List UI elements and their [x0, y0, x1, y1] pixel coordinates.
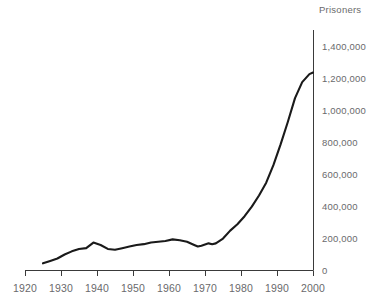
x-axis-tick-label: 1970 [185, 282, 225, 294]
prisoners-data-line [43, 73, 313, 264]
y-axis-title: Prisoners [319, 4, 361, 15]
y-axis-tick-label: 400,000 [322, 201, 358, 212]
x-axis-tick-label: 1940 [77, 282, 117, 294]
y-axis-tick-label: 1,000,000 [322, 105, 366, 116]
x-axis-tick-label: 1920 [5, 282, 45, 294]
y-axis-tick-label: 0 [322, 265, 327, 276]
x-axis-tick-label: 2000 [293, 282, 333, 294]
x-axis-ticks [26, 271, 314, 277]
x-axis-tick-label: 1960 [149, 282, 189, 294]
x-axis-tick-label: 1930 [41, 282, 81, 294]
y-axis-tick-label: 1,400,000 [322, 41, 366, 52]
x-axis-tick-label: 1950 [113, 282, 153, 294]
prisoners-line-chart: Prisoners 0200,000400,000600,000800,0001… [0, 0, 392, 306]
x-axis-tick-label: 1980 [221, 282, 261, 294]
y-axis-tick-label: 800,000 [322, 137, 358, 148]
y-axis-tick-label: 600,000 [322, 169, 358, 180]
y-axis-tick-label: 200,000 [322, 233, 358, 244]
y-axis-tick-label: 1,200,000 [322, 73, 366, 84]
x-axis-tick-label: 1990 [257, 282, 297, 294]
